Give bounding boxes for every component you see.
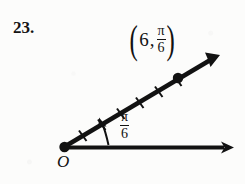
- angle-arrow-curve: [103, 125, 109, 146]
- angle-fraction: π 6: [157, 24, 166, 55]
- origin-point: [59, 142, 69, 152]
- radius-value: 6: [138, 29, 150, 51]
- angle-numerator: π: [157, 24, 166, 38]
- angle-measure-label: π 6: [120, 110, 129, 141]
- coordinate-comma: ,: [150, 29, 155, 51]
- angle-denominator: 6: [157, 41, 166, 55]
- open-paren: (: [130, 24, 138, 55]
- terminal-ray: [64, 53, 220, 148]
- point-coordinate-label: ( 6 , π 6 ): [129, 24, 175, 55]
- polar-axis: [64, 142, 234, 154]
- angle-measure-numerator: π: [120, 110, 129, 124]
- terminal-ray-line: [64, 59, 212, 147]
- polar-diagram: [0, 0, 245, 184]
- origin-label: O: [57, 152, 69, 172]
- angle-measure-fraction: π 6: [120, 110, 129, 141]
- angle-measure-denominator: 6: [120, 127, 129, 141]
- plotted-point: [173, 73, 183, 83]
- close-paren: ): [166, 24, 174, 55]
